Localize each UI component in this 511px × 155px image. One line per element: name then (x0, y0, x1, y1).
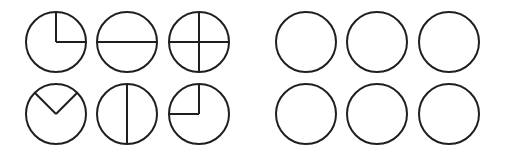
figure-background (0, 0, 511, 155)
circle-cell (169, 12, 229, 72)
circle-fraction-grid (0, 0, 511, 155)
